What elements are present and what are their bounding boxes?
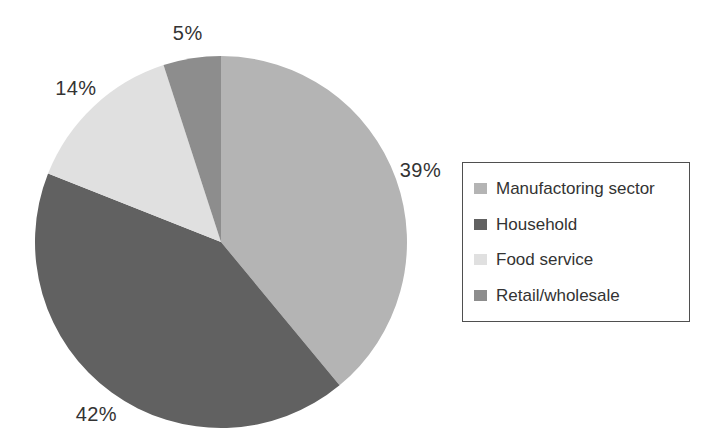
pie-data-label-retail-wholesale: 5% (173, 22, 203, 44)
pie-chart-figure: 39%42%14%5% Manufactoring sectorHousehol… (0, 0, 719, 444)
pie-data-label-manufactoring-sector: 39% (400, 159, 442, 181)
legend-swatch-food-service (474, 254, 487, 265)
legend: Manufactoring sectorHouseholdFood servic… (462, 162, 690, 322)
legend-swatch-household (474, 219, 487, 230)
legend-label-household: Household (496, 216, 577, 233)
pie-data-label-household: 42% (76, 403, 118, 425)
legend-label-retail-wholesale: Retail/wholesale (496, 287, 620, 304)
legend-swatch-manufactoring-sector (474, 183, 487, 194)
legend-label-food-service: Food service (496, 251, 593, 268)
legend-label-manufactoring-sector: Manufactoring sector (496, 180, 655, 197)
legend-item-food-service: Food service (474, 251, 683, 268)
legend-item-household: Household (474, 216, 683, 233)
legend-item-manufactoring-sector: Manufactoring sector (474, 180, 683, 197)
pie-data-label-food-service: 14% (55, 77, 97, 99)
legend-swatch-retail-wholesale (474, 290, 487, 301)
legend-item-retail-wholesale: Retail/wholesale (474, 287, 683, 304)
